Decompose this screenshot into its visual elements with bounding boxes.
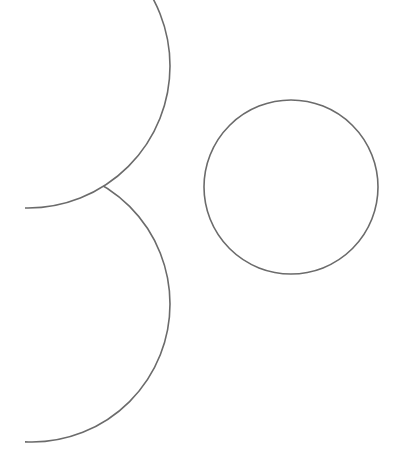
diagram-canvas <box>0 0 395 466</box>
right-circle <box>204 100 378 274</box>
